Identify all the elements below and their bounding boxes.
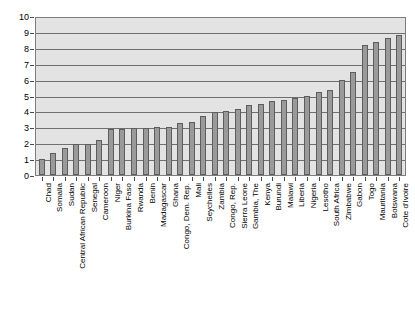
- y-tick-label: 6: [24, 76, 29, 85]
- x-tick-label: Botswana: [391, 183, 399, 218]
- x-tick-label-text: Gabon: [356, 183, 364, 207]
- x-tick-mark: [261, 177, 262, 181]
- x-tick-label: Gambia, The: [252, 183, 260, 229]
- y-tick-mark: [30, 112, 34, 113]
- y-tick-mark: [30, 49, 34, 50]
- y-tick-label: 7: [24, 60, 29, 69]
- bar: [339, 80, 345, 175]
- x-tick-mark: [157, 177, 158, 181]
- x-tick-label-text: Mali: [195, 183, 203, 198]
- x-tick-label-text: Central African Republic: [79, 183, 87, 269]
- x-tick-mark: [111, 177, 112, 181]
- x-tick-label: Chad: [45, 183, 53, 202]
- x-tick-label: Senegal: [91, 183, 99, 212]
- x-tick-label: Congo, Dem. Rep.: [183, 183, 191, 249]
- x-tick-mark: [122, 177, 123, 181]
- x-tick-label-text: Madagascar: [160, 183, 168, 227]
- y-tick-mark: [30, 33, 34, 34]
- y-tick-mark: [30, 81, 34, 82]
- bar: [96, 140, 102, 175]
- x-tick-mark: [319, 177, 320, 181]
- x-tick-label-text: South Africa: [333, 183, 341, 226]
- x-tick-label-text: Zimbabwe: [345, 183, 353, 220]
- bar-series: [36, 18, 405, 175]
- y-tick-label: 3: [24, 124, 29, 133]
- x-tick-mark: [180, 177, 181, 181]
- x-tick-mark: [65, 177, 66, 181]
- x-tick-label: Central African Republic: [79, 183, 87, 269]
- bar-chart: 012345678910 ChadSomaliaSudanCentral Afr…: [0, 0, 415, 309]
- x-tick-label-text: Sierra Leone: [241, 183, 249, 229]
- bar: [212, 112, 218, 175]
- bar: [200, 116, 206, 175]
- y-tick-mark: [30, 65, 34, 66]
- x-tick-label-text: Benin: [149, 183, 157, 203]
- x-tick-label: Gabon: [356, 183, 364, 207]
- x-tick-label-text: Sudan: [68, 183, 76, 206]
- x-tick-label: Kenya: [264, 183, 272, 206]
- bar: [373, 42, 379, 175]
- x-tick-label: Burundi: [275, 183, 283, 211]
- bar: [385, 38, 391, 175]
- y-tick-mark: [30, 17, 34, 18]
- bar: [362, 45, 368, 175]
- x-tick-label: Seychelles: [206, 183, 214, 222]
- x-tick-label-text: Seychelles: [206, 183, 214, 222]
- x-tick-label-text: Kenya: [264, 183, 272, 206]
- y-axis: 012345678910: [0, 0, 33, 195]
- bar: [235, 109, 241, 175]
- x-tick-label: Malawi: [287, 183, 295, 208]
- bar: [166, 127, 172, 175]
- x-tick-label: Zambia: [218, 183, 226, 210]
- x-tick-mark: [330, 177, 331, 181]
- bar: [396, 35, 402, 175]
- x-tick-mark: [388, 177, 389, 181]
- x-tick-label: Zimbabwe: [345, 183, 353, 220]
- x-tick-label-text: Senegal: [91, 183, 99, 212]
- y-tick-mark: [30, 97, 34, 98]
- bar: [131, 128, 137, 175]
- x-tick-mark: [146, 177, 147, 181]
- x-tick-mark: [42, 177, 43, 181]
- bar: [119, 129, 125, 175]
- x-tick-mark: [99, 177, 100, 181]
- x-tick-mark: [353, 177, 354, 181]
- bar: [108, 129, 114, 175]
- x-tick-label: Niger: [114, 183, 122, 202]
- x-tick-label: Cameroon: [102, 183, 110, 220]
- x-tick-label-text: Niger: [114, 183, 122, 202]
- x-tick-label-text: Nigeria: [310, 183, 318, 208]
- x-tick-mark: [238, 177, 239, 181]
- x-tick-label-text: Liberia: [298, 183, 306, 207]
- bar: [304, 96, 310, 175]
- x-tick-mark: [226, 177, 227, 181]
- bar: [269, 101, 275, 175]
- x-tick-label-text: Gambia, The: [252, 183, 260, 229]
- bar: [62, 148, 68, 175]
- x-tick-mark: [249, 177, 250, 181]
- x-tick-label: Sudan: [68, 183, 76, 206]
- x-tick-mark: [169, 177, 170, 181]
- x-tick-label-text: Mauritania: [379, 183, 387, 220]
- y-tick-label: 5: [24, 92, 29, 101]
- x-tick-label-text: Lesotho: [322, 183, 330, 211]
- x-tick-label-text: Somalia: [56, 183, 64, 212]
- y-tick-label: 10: [19, 13, 29, 22]
- x-tick-mark: [307, 177, 308, 181]
- x-tick-label: Madagascar: [160, 183, 168, 227]
- bar: [189, 122, 195, 175]
- x-tick-label-text: Congo, Rep.: [229, 183, 237, 228]
- bar: [292, 98, 298, 175]
- bar: [154, 127, 160, 175]
- x-tick-label-text: Ghana: [172, 183, 180, 207]
- bar: [316, 92, 322, 175]
- bar: [50, 153, 56, 175]
- x-tick-label-text: Togo: [368, 183, 376, 200]
- y-tick-label: 2: [24, 140, 29, 149]
- bar: [350, 72, 356, 175]
- y-tick-label: 9: [24, 28, 29, 37]
- x-tick-label: Congo, Rep.: [229, 183, 237, 228]
- x-tick-label-text: Chad: [45, 183, 53, 202]
- bar: [177, 123, 183, 175]
- x-tick-label-text: Cameroon: [102, 183, 110, 220]
